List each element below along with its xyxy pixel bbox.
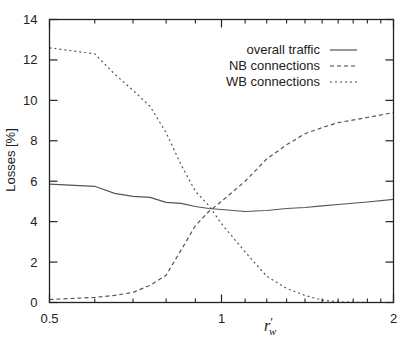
series-nb-connections <box>50 113 394 300</box>
tick-labels: 024681012140.512 <box>23 12 397 326</box>
y-tick-label: 8 <box>30 133 37 148</box>
y-tick-label: 6 <box>30 174 37 189</box>
x-axis-label-sub: w <box>269 325 277 337</box>
y-tick-label: 0 <box>30 295 37 310</box>
y-axis-label: Losses [%] <box>3 128 18 192</box>
axis-ticks <box>50 20 394 303</box>
y-tick-label: 2 <box>30 255 37 270</box>
plot-frame <box>50 20 394 303</box>
x-tick-label: 0.5 <box>40 311 58 326</box>
y-tick-label: 4 <box>30 214 37 229</box>
x-axis-label: r′w <box>264 314 277 337</box>
legend-label-nb-connections: NB connections <box>229 58 321 73</box>
x-tick-label: 2 <box>390 311 397 326</box>
y-tick-label: 10 <box>23 93 37 108</box>
y-tick-label: 14 <box>23 12 37 27</box>
legend: overall traffic NB connections WB connec… <box>226 42 357 89</box>
x-tick-label: 1 <box>218 311 225 326</box>
series-layer <box>50 48 394 303</box>
series-wb-connections <box>50 48 394 303</box>
y-tick-label: 12 <box>23 52 37 67</box>
line-chart: 024681012140.512 Losses [%] r′w overall … <box>0 0 415 348</box>
series-overall-traffic <box>50 184 394 211</box>
legend-label-overall-traffic: overall traffic <box>247 42 321 57</box>
legend-label-wb-connections: WB connections <box>226 74 320 89</box>
